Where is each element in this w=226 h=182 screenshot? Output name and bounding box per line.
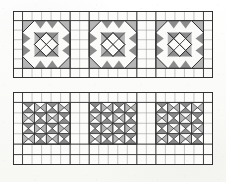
octagon-star-block-1 bbox=[23, 21, 71, 69]
figure-root bbox=[0, 0, 226, 182]
top-panel bbox=[13, 11, 213, 78]
octagon-star-block-2 bbox=[89, 21, 137, 69]
top-panel-drawing bbox=[13, 11, 213, 78]
bottom-panel bbox=[13, 92, 213, 165]
hourglass-x-block-1 bbox=[23, 102, 71, 144]
bottom-panel-drawing bbox=[13, 92, 213, 165]
hourglass-x-block-3 bbox=[156, 102, 204, 144]
octagon-star-block-3 bbox=[156, 21, 204, 69]
hourglass-x-block-2 bbox=[89, 102, 137, 144]
